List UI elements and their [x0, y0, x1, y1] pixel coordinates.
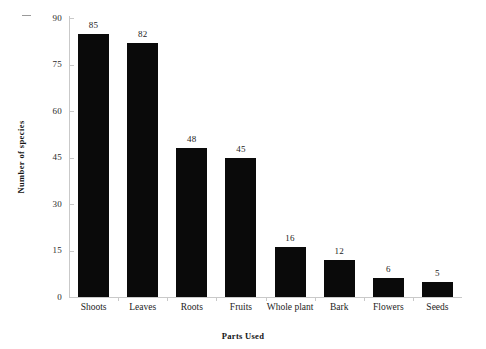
- y-axis-tick-label: 30: [22, 200, 62, 209]
- x-axis-tick: [118, 297, 119, 301]
- bar: [78, 34, 109, 298]
- y-axis-tick: [69, 297, 74, 298]
- bar: [225, 158, 256, 298]
- plot-area: [69, 18, 462, 297]
- bar: [127, 43, 158, 297]
- x-axis-title: Parts Used: [0, 331, 486, 341]
- bar: [422, 282, 453, 298]
- y-axis-tick-label: 75: [22, 60, 62, 69]
- y-axis-title: Number of species: [16, 120, 26, 193]
- x-axis-tick: [315, 297, 316, 301]
- bar-value-label: 6: [368, 265, 408, 274]
- bar-value-label: 5: [417, 269, 457, 278]
- y-axis-tick-label: 60: [22, 107, 62, 116]
- x-axis-tick: [266, 297, 267, 301]
- x-axis-tick: [413, 297, 414, 301]
- bar-value-label: 48: [172, 135, 212, 144]
- bar: [324, 260, 355, 297]
- x-axis-tick: [167, 297, 168, 301]
- y-axis-tick-label: 15: [22, 246, 62, 255]
- x-axis-tick: [364, 297, 365, 301]
- bar: [176, 148, 207, 297]
- bar: [373, 278, 404, 297]
- y-axis-tick-label: 45: [22, 153, 62, 162]
- x-axis-category-label: Seeds: [397, 303, 477, 313]
- y-axis-tick-label: 90: [22, 14, 62, 23]
- x-axis-tick: [216, 297, 217, 301]
- bar-chart-figure: 9075604530150 85824845161265 ShootsLeave…: [0, 0, 486, 349]
- bar-value-label: 12: [319, 247, 359, 256]
- bar: [275, 247, 306, 297]
- bar-value-label: 45: [221, 145, 261, 154]
- bar-value-label: 16: [270, 234, 310, 243]
- bar-value-label: 85: [74, 21, 114, 30]
- y-axis-tick-label: 0: [22, 293, 62, 302]
- bar-value-label: 82: [123, 30, 163, 39]
